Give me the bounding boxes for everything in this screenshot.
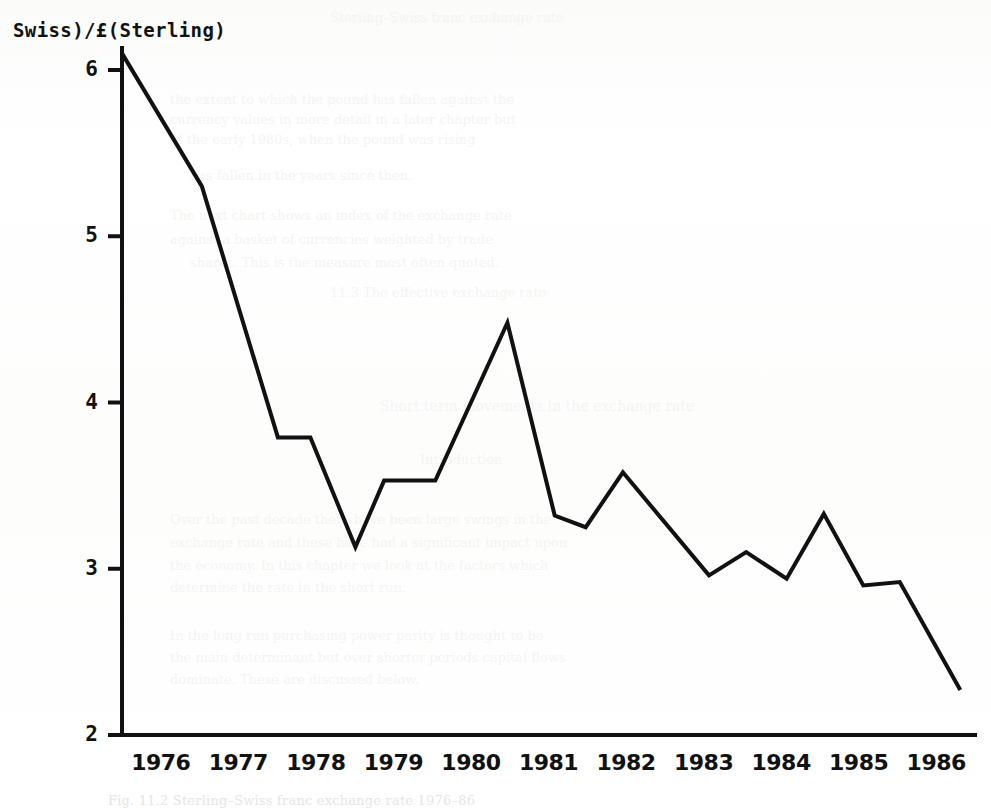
y-tick-label: 5 [70, 225, 98, 246]
x-tick-label: 1986 [896, 752, 976, 774]
x-tick-label: 1981 [509, 752, 589, 774]
x-tick-label: 1984 [741, 752, 821, 774]
chart-svg [0, 0, 991, 760]
x-tick-label: 1978 [276, 752, 356, 774]
data-line-swiss-franc-per-pound [122, 53, 960, 690]
figure-caption: Fig. 11.2 Sterling–Swiss franc exchange … [108, 793, 475, 808]
x-tick-label: 1985 [819, 752, 899, 774]
x-tick-labels: 1976197719781979198019811982198319841985… [0, 752, 991, 786]
y-tick-label: 6 [70, 59, 98, 80]
y-tick-label: 3 [70, 558, 98, 579]
x-tick-label: 1983 [664, 752, 744, 774]
x-tick-label: 1980 [431, 752, 511, 774]
y-tick-marks [108, 70, 122, 735]
plot-area: 65432 [0, 0, 991, 760]
x-tick-label: 1977 [198, 752, 278, 774]
x-tick-label: 1976 [121, 752, 201, 774]
x-tick-label: 1982 [586, 752, 666, 774]
x-tick-label: 1979 [353, 752, 433, 774]
y-tick-label: 2 [70, 724, 98, 745]
y-tick-label: 4 [70, 392, 98, 413]
